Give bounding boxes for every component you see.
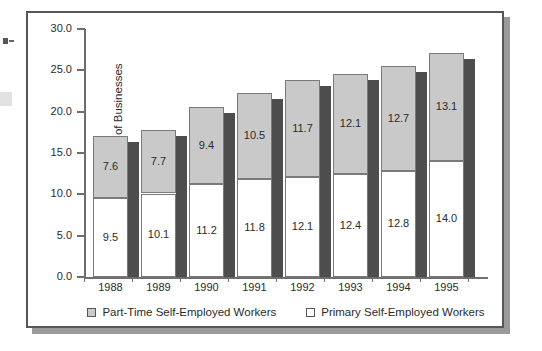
y-axis-tick-label: 25.0 xyxy=(30,63,72,75)
bar-shadow xyxy=(272,99,283,277)
legend-item-primary[interactable]: Primary Self-Employed Workers xyxy=(306,306,484,318)
y-axis-tick xyxy=(77,193,85,195)
y-axis-tick xyxy=(77,28,85,30)
bar-value-label-part-time: 11.7 xyxy=(285,122,320,134)
bar-value-label-part-time: 7.6 xyxy=(93,160,128,172)
x-axis-label-1988: 1988 xyxy=(85,281,137,293)
legend-item-part-time[interactable]: Part-Time Self-Employed Workers xyxy=(87,306,276,318)
bar-shadow xyxy=(416,72,427,277)
legend-label: Primary Self-Employed Workers xyxy=(321,306,484,318)
x-axis-label-1993: 1993 xyxy=(325,281,377,293)
bar-value-label-part-time: 12.1 xyxy=(333,117,368,129)
y-axis-tick xyxy=(77,235,85,237)
scan-artifact xyxy=(3,38,8,44)
bar-value-label-part-time: 13.1 xyxy=(429,100,464,112)
x-axis-label-1992: 1992 xyxy=(277,281,329,293)
bar-value-label-part-time: 12.7 xyxy=(381,112,416,124)
panel-drop-shadow xyxy=(504,17,510,334)
bar-value-label-primary: 12.4 xyxy=(333,219,368,231)
bar-value-label-part-time: 7.7 xyxy=(141,155,176,167)
bar-shadow xyxy=(320,86,331,277)
legend-swatch-icon xyxy=(87,308,96,317)
y-axis-tick-label: 10.0 xyxy=(30,187,72,199)
y-axis-tick-label: 20.0 xyxy=(30,105,72,117)
bar-value-label-primary: 10.1 xyxy=(141,228,176,240)
bar-shadow xyxy=(224,113,235,277)
y-axis-tick xyxy=(77,69,85,71)
bar-shadow xyxy=(176,136,187,277)
y-axis-tick xyxy=(77,152,85,154)
legend-label: Part-Time Self-Employed Workers xyxy=(102,306,276,318)
bar-value-label-primary: 14.0 xyxy=(429,212,464,224)
bar-value-label-primary: 11.8 xyxy=(237,221,272,233)
x-axis-label-1994: 1994 xyxy=(373,281,425,293)
bar-shadow xyxy=(128,142,139,277)
panel-drop-shadow xyxy=(32,328,510,334)
y-axis-tick-label: 5.0 xyxy=(30,229,72,241)
scan-artifact xyxy=(0,92,12,106)
y-axis-tick xyxy=(77,111,85,113)
x-axis-label-1989: 1989 xyxy=(133,281,185,293)
bar-shadow xyxy=(368,80,379,277)
x-axis-tick xyxy=(468,277,469,282)
x-axis-line xyxy=(84,277,488,279)
chart-panel: Millions of Businesses 30.025.020.015.01… xyxy=(26,11,504,328)
x-axis-label-1991: 1991 xyxy=(229,281,281,293)
bar-value-label-primary: 9.5 xyxy=(93,231,128,243)
x-axis-label-1990: 1990 xyxy=(181,281,233,293)
bar-value-label-part-time: 9.4 xyxy=(189,139,224,151)
plot-area: Millions of Businesses 30.025.020.015.01… xyxy=(84,18,488,298)
x-axis-label-1995: 1995 xyxy=(421,281,473,293)
scan-artifact xyxy=(9,40,14,42)
chart-legend: Part-Time Self-Employed Workers Primary … xyxy=(84,306,488,318)
bar-value-label-primary: 12.1 xyxy=(285,220,320,232)
y-axis-tick-label: 30.0 xyxy=(30,22,72,34)
legend-swatch-icon xyxy=(306,308,315,317)
bar-value-label-part-time: 10.5 xyxy=(237,129,272,141)
bar-shadow xyxy=(464,59,475,277)
y-axis-tick-label: 15.0 xyxy=(30,146,72,158)
bar-value-label-primary: 12.8 xyxy=(381,217,416,229)
bar-value-label-primary: 11.2 xyxy=(189,224,224,236)
y-axis-tick-label: 0.0 xyxy=(30,270,72,282)
